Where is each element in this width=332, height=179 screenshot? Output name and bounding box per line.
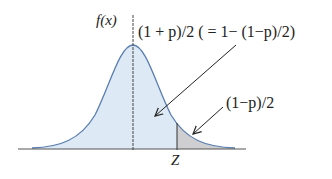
tail-area-label: (1−p)/2 — [226, 94, 274, 112]
tail-area-arrow — [193, 107, 223, 134]
z-point-label: Z — [171, 152, 179, 169]
central-area-arrow — [155, 45, 236, 116]
y-axis-label: f(x) — [96, 12, 117, 29]
central-area-label: (1 + p)/2 ( = 1− (1−p)/2) — [138, 23, 295, 41]
